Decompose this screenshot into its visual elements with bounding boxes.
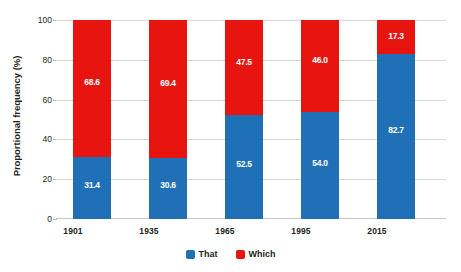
bar-segment-which-1935[interactable]: 69.4 — [149, 20, 187, 158]
bar-group-1995[interactable]: 46.0 54.0 — [301, 20, 339, 219]
bar-group-1901[interactable]: 68.6 31.4 — [73, 20, 111, 219]
bar-segment-that-1935[interactable]: 30.6 — [149, 158, 187, 219]
legend-swatch-that-icon — [186, 250, 195, 259]
bar-label-that-2015: 82.7 — [377, 126, 415, 135]
x-tick-label-1995: 1995 — [271, 226, 331, 236]
y-tick-mark-0 — [53, 219, 57, 220]
x-tick-label-2015: 2015 — [347, 226, 407, 236]
bar-label-that-1995: 54.0 — [301, 159, 339, 168]
y-tick-label-80: 80 — [20, 56, 52, 65]
bar-segment-that-2015[interactable]: 82.7 — [377, 54, 415, 219]
plot-area: 68.6 31.4 69.4 30.6 47.5 52.5 — [56, 20, 446, 219]
bar-segment-that-1901[interactable]: 31.4 — [73, 157, 111, 220]
bar-label-that-1935: 30.6 — [149, 181, 187, 190]
bar-group-1935[interactable]: 69.4 30.6 — [149, 20, 187, 219]
bar-segment-which-2015[interactable]: 17.3 — [377, 20, 415, 54]
bar-label-which-1995: 46.0 — [301, 56, 339, 65]
bar-segment-which-1995[interactable]: 46.0 — [301, 20, 339, 112]
legend-label-that: That — [199, 249, 218, 259]
y-tick-label-0: 0 — [20, 215, 52, 224]
y-tick-label-40: 40 — [20, 135, 52, 144]
y-tick-label-60: 60 — [20, 96, 52, 105]
chart-legend: That Which — [0, 249, 461, 259]
bar-label-which-1901: 68.6 — [73, 78, 111, 87]
stacked-bar-chart: Proportional frequency (%) 100 80 60 40 … — [0, 0, 461, 272]
bar-label-which-1935: 69.4 — [149, 79, 187, 88]
bar-segment-which-1901[interactable]: 68.6 — [73, 20, 111, 157]
bar-label-which-1965: 47.5 — [225, 58, 263, 67]
y-tick-label-20: 20 — [20, 175, 52, 184]
legend-swatch-which-icon — [236, 250, 245, 259]
bar-segment-that-1995[interactable]: 54.0 — [301, 112, 339, 220]
y-tick-label-100: 100 — [20, 16, 52, 25]
legend-label-which: Which — [249, 249, 276, 259]
bar-group-1965[interactable]: 47.5 52.5 — [225, 20, 263, 219]
x-tick-label-1965: 1965 — [195, 226, 255, 236]
x-tick-label-1901: 1901 — [43, 226, 103, 236]
x-tick-label-1935: 1935 — [119, 226, 179, 236]
legend-item-which[interactable]: Which — [236, 249, 276, 259]
bar-segment-that-1965[interactable]: 52.5 — [225, 115, 263, 220]
bar-label-which-2015: 17.3 — [377, 32, 415, 41]
legend-item-that[interactable]: That — [186, 249, 218, 259]
bar-group-2015[interactable]: 17.3 82.7 — [377, 20, 415, 219]
bar-label-that-1901: 31.4 — [73, 181, 111, 190]
bar-segment-which-1965[interactable]: 47.5 — [225, 20, 263, 115]
bar-label-that-1965: 52.5 — [225, 160, 263, 169]
